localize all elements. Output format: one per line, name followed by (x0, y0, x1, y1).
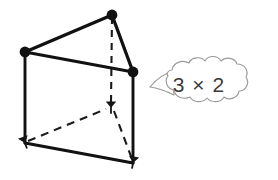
edge-bottom-back-to-right (114, 111, 132, 159)
prism-callout-figure: 3 × 2 (0, 0, 278, 180)
diagram-canvas: 3 × 2 (0, 0, 278, 180)
edge-top-left-to-apex (25, 15, 112, 52)
edge-bottom-left-to-right (25, 143, 133, 163)
edge-top-right-to-top-left (25, 52, 133, 72)
vertex-top-right (128, 67, 139, 78)
edge-bottom-left-to-back (28, 109, 106, 141)
visible-edges-group (25, 15, 133, 163)
hidden-edges-group (28, 17, 132, 159)
vertex-top-apex (107, 10, 118, 21)
callout-text: 3 × 2 (173, 73, 225, 96)
vertex-top-left (20, 47, 31, 58)
edge-apex-to-top-right (112, 15, 133, 72)
callout-bubble[interactable]: 3 × 2 (150, 57, 248, 102)
edge-back-vertical (111, 17, 112, 103)
